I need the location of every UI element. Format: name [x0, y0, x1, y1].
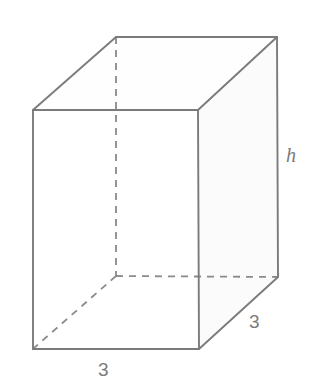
- figure-container: 3 3 h: [0, 0, 313, 391]
- dimension-label-height: h: [286, 145, 296, 165]
- rectangular-prism-drawing: [0, 0, 313, 391]
- edge-front-right: [198, 110, 199, 349]
- hidden-edge-depth-front: [34, 276, 116, 348]
- dimension-label-width: 3: [98, 360, 109, 379]
- dimension-label-depth: 3: [249, 312, 260, 331]
- edge-back-right-vertical: [277, 37, 278, 277]
